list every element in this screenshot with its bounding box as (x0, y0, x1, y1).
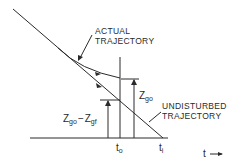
undisturbed-label-line1: UNDISTURBED (162, 101, 227, 111)
actual-leader-line (80, 35, 92, 58)
ti-label: ti (159, 142, 164, 154)
t0-label: to (116, 142, 123, 154)
zgo-minus-zgf-label: Zgo−Zgf (63, 113, 97, 126)
actual-label-line1: ACTUAL (95, 26, 130, 36)
undisturbed-leader-line (149, 112, 161, 122)
undisturbed-label-line2: TRAJECTORY (162, 111, 221, 121)
time-axis-label: t (203, 148, 206, 159)
trajectory-diagram: ACTUAL TRAJECTORY UNDISTURBED TRAJECTORY… (0, 0, 244, 164)
zgo-label: Zgo (139, 90, 153, 103)
actual-leader-arrowhead (78, 55, 83, 61)
time-axis-arrowhead (218, 152, 223, 156)
actual-label-line2: TRAJECTORY (95, 36, 154, 46)
undisturbed-direction-arrow (96, 83, 102, 88)
actual-trajectory-curve (58, 48, 120, 78)
